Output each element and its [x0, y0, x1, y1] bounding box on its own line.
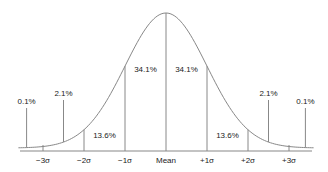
axis-tick-label: −1σ: [118, 156, 132, 165]
axis-tick-label: +3σ: [282, 156, 296, 165]
region-percent-label: 34.1%: [134, 65, 157, 74]
axis-tick-label: −2σ: [77, 156, 91, 165]
region-percent-label: 13.6%: [93, 131, 116, 140]
region-percent-label: 2.1%: [54, 89, 72, 98]
region-percent-label: 34.1%: [175, 65, 198, 74]
region-percent-label: 0.1%: [296, 97, 314, 106]
region-percent-label: 13.6%: [216, 131, 239, 140]
region-percent-label: 2.1%: [259, 89, 277, 98]
axis-tick-label: +1σ: [200, 156, 214, 165]
normal-distribution-diagram: −3σ−2σ−1σMean+1σ+2σ+3σ 0.1%2.1%13.6%34.1…: [0, 0, 328, 172]
axis-tick-label: Mean: [156, 156, 176, 165]
axis-tick-label: −3σ: [36, 156, 50, 165]
axis-tick-label: +2σ: [241, 156, 255, 165]
region-percent-label: 0.1%: [17, 97, 35, 106]
